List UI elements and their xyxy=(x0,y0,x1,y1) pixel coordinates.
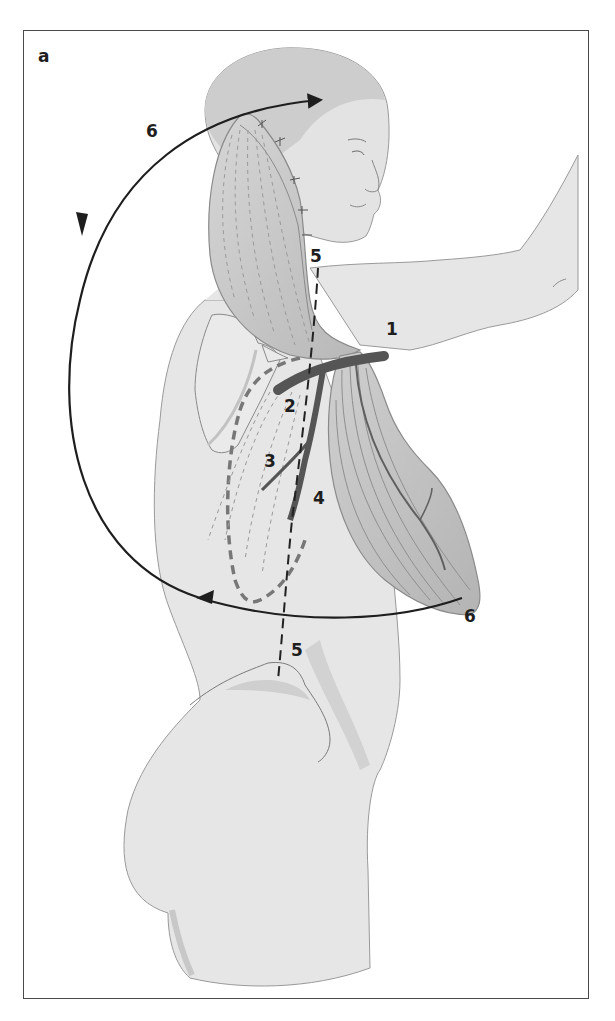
label-5-bottom: 5 xyxy=(291,640,303,660)
label-6-top: 6 xyxy=(146,121,158,141)
anatomical-illustration: a 1 2 3 4 5 5 6 6 xyxy=(0,0,615,1021)
label-1: 1 xyxy=(386,319,398,339)
label-3: 3 xyxy=(264,451,276,471)
label-4: 4 xyxy=(313,488,325,508)
label-2: 2 xyxy=(284,396,296,416)
label-6-bottom: 6 xyxy=(464,606,476,626)
panel-label: a xyxy=(38,46,49,66)
arc-arrow-mid-left xyxy=(76,212,88,236)
label-5-top: 5 xyxy=(310,246,322,266)
